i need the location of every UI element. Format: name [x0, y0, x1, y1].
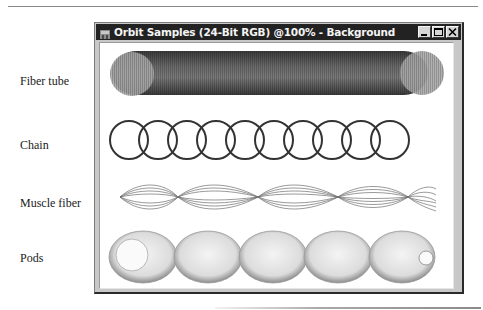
label-pods: Pods — [20, 251, 43, 266]
maximize-button[interactable] — [432, 26, 445, 38]
label-fiber-tube: Fiber tube — [20, 74, 69, 89]
chain-sample — [108, 116, 428, 164]
fiber-tube-sample — [104, 47, 449, 99]
image-canvas[interactable] — [99, 42, 454, 289]
document-window: Orbit Samples (24-Bit RGB) @100% - Backg… — [94, 22, 464, 294]
maximize-icon — [433, 27, 444, 37]
close-button[interactable] — [446, 26, 459, 38]
label-muscle-fiber: Muscle fiber — [20, 196, 81, 211]
title-bar[interactable]: Orbit Samples (24-Bit RGB) @100% - Backg… — [96, 24, 461, 40]
minimize-icon — [419, 27, 430, 37]
top-divider — [8, 6, 478, 7]
app-icon — [99, 26, 111, 38]
close-icon — [447, 27, 458, 37]
pods-sample — [108, 229, 448, 285]
muscle-fiber-sample — [118, 179, 438, 215]
label-chain: Chain — [20, 138, 49, 153]
bottom-divider — [215, 307, 481, 309]
minimize-button[interactable] — [418, 26, 431, 38]
window-title: Orbit Samples (24-Bit RGB) @100% - Backg… — [114, 26, 395, 38]
